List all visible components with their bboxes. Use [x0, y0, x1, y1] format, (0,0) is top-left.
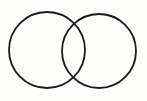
figure-canvas: Two overlapping circles: [0, 0, 147, 101]
right-circle: [62, 14, 136, 88]
two-circles-diagram: Two overlapping circles: [0, 0, 147, 101]
